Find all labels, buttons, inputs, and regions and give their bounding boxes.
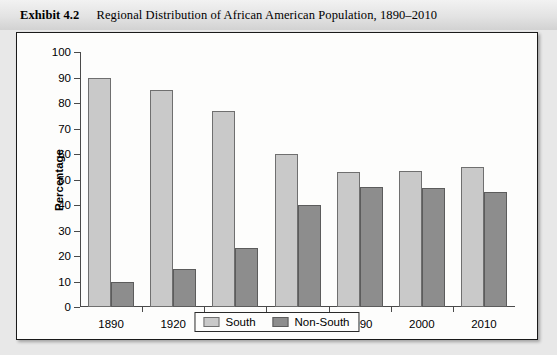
y-tick [74, 205, 80, 206]
bar-non-south-1990 [360, 187, 383, 307]
exhibit-title: Regional Distribution of African America… [96, 8, 437, 23]
y-tick-label: 10 [58, 276, 71, 288]
bar-non-south-1890 [111, 282, 134, 308]
x-tick-label: 1890 [98, 318, 124, 330]
bar-south-2000 [399, 171, 422, 307]
bar-south-1920 [150, 90, 173, 307]
legend-label: South [225, 316, 255, 328]
y-tick-label: 60 [58, 148, 71, 160]
y-tick [74, 103, 80, 104]
y-tick [74, 154, 80, 155]
legend-entry-south[interactable]: South [203, 316, 255, 328]
x-tick [391, 307, 392, 312]
y-tick [74, 78, 80, 79]
legend-swatch-icon [273, 317, 289, 327]
y-tick [74, 256, 80, 257]
bar-south-1940 [212, 111, 235, 307]
y-tick-label: 20 [58, 250, 71, 262]
y-tick-label: 40 [58, 199, 71, 211]
legend-label: Non-South [295, 316, 350, 328]
y-tick [74, 180, 80, 181]
exhibit-header: Exhibit 4.2 Regional Distribution of Afr… [0, 0, 557, 30]
y-tick-label: 100 [52, 46, 71, 58]
exhibit-number: Exhibit 4.2 [20, 8, 79, 23]
y-tick-label: 80 [58, 97, 71, 109]
bar-south-1990 [337, 172, 360, 307]
bar-non-south-1960 [298, 205, 321, 307]
y-tick [74, 231, 80, 232]
y-tick-label: 0 [65, 301, 71, 313]
legend-entry-non-south[interactable]: Non-South [273, 316, 350, 328]
x-tick-label: 1920 [160, 318, 186, 330]
bar-south-1960 [275, 154, 298, 307]
y-tick-label: 50 [58, 174, 71, 186]
chart-frame: Percentage 0102030405060708090100 189019… [16, 32, 538, 340]
bar-south-1890 [88, 78, 111, 308]
y-tick [74, 282, 80, 283]
y-tick [74, 129, 80, 130]
plot-area: Percentage 0102030405060708090100 189019… [80, 52, 515, 307]
bar-south-2010 [461, 167, 484, 307]
x-tick [453, 307, 454, 312]
chart-legend: SouthNon-South [194, 312, 359, 332]
x-tick-label: 2000 [409, 318, 435, 330]
bar-non-south-1920 [173, 269, 196, 307]
y-tick [74, 52, 80, 53]
x-tick [142, 307, 143, 312]
bar-non-south-1940 [235, 248, 258, 307]
bar-non-south-2010 [484, 192, 507, 307]
y-tick [74, 307, 80, 308]
y-tick-label: 70 [58, 123, 71, 135]
bar-non-south-2000 [422, 188, 445, 307]
legend-swatch-icon [203, 317, 219, 327]
y-tick-label: 90 [58, 72, 71, 84]
y-tick-label: 30 [58, 225, 71, 237]
x-tick-label: 2010 [471, 318, 497, 330]
y-axis-line [80, 52, 81, 307]
